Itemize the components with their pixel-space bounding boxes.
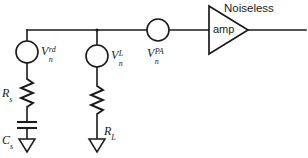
preamp-noise-label-base: V — [147, 46, 154, 60]
source-resistor-zigzag — [21, 79, 33, 107]
load-noise-label-superscript: L — [119, 50, 123, 58]
source-noise-circle — [16, 41, 38, 63]
source-noise-label-superscript: rd — [49, 46, 56, 54]
source-capacitor-label: Cs — [2, 134, 13, 149]
ground-middle-icon — [89, 139, 105, 152]
source-capacitor-label-base: C — [2, 133, 10, 147]
load-noise-circle — [86, 45, 108, 67]
amplifier-caption-above: Noiseless — [224, 3, 274, 15]
source-capacitor-label-subscript: s — [10, 142, 13, 151]
circuit-schematic-canvas — [0, 0, 308, 158]
circuit-diagram: Vrdn VLn VPAn Rs Cs RL Noiseless amp — [0, 0, 308, 158]
left-branch — [16, 30, 38, 152]
amplifier-caption-inside: amp — [213, 24, 234, 35]
source-resistor-label: Rs — [2, 87, 12, 102]
load-resistor-label-subscript: L — [111, 133, 115, 142]
source-noise-label-base: V — [41, 44, 48, 58]
preamp-noise-label-subscript: n — [155, 58, 159, 66]
source-noise-label-subscript: n — [49, 56, 53, 64]
preamp-noise-label-superscript: PA — [155, 48, 164, 56]
load-resistor-label: RL — [104, 125, 116, 140]
preamp-noise-circle — [147, 19, 169, 41]
load-resistor-zigzag — [91, 86, 103, 114]
load-noise-label-subscript: n — [119, 60, 123, 68]
preamp-noise-label: VPAn — [147, 47, 154, 59]
preamp-noise-group — [147, 19, 169, 41]
ground-left-icon — [19, 139, 35, 152]
source-noise-label: Vrdn — [41, 45, 48, 57]
load-noise-label: VLn — [111, 49, 118, 61]
load-noise-label-base: V — [111, 48, 118, 62]
